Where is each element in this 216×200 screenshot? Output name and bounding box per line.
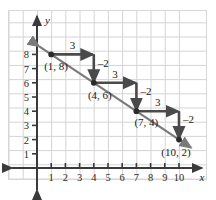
y-tick-label-5: 5 — [24, 92, 29, 103]
point-label-2: (7, 4) — [134, 116, 158, 129]
x-tick-label-5: 5 — [105, 172, 110, 183]
chart-figure: 1234567891012345678xy3–23–23–2(1, 8)(4, … — [0, 0, 216, 200]
y-tick-label-8: 8 — [24, 49, 29, 60]
rise-label-0: –2 — [97, 57, 109, 69]
run-label-0: 3 — [70, 39, 76, 51]
x-tick-label-6: 6 — [120, 172, 125, 183]
y-tick-label-7: 7 — [24, 64, 29, 75]
point-label-3: (10, 2) — [161, 146, 191, 159]
data-point-1 — [91, 80, 97, 86]
y-tick-label-4: 4 — [24, 106, 30, 117]
coordinate-plane: 1234567891012345678xy3–23–23–2(1, 8)(4, … — [0, 0, 216, 200]
y-axis-label: y — [44, 14, 50, 26]
point-label-1: (4, 6) — [88, 89, 112, 102]
rise-label-1: –2 — [139, 85, 151, 97]
y-tick-label-2: 2 — [24, 135, 29, 146]
point-label-0: (1, 8) — [44, 60, 68, 73]
y-tick-label-3: 3 — [24, 120, 29, 131]
run-label-1: 3 — [112, 68, 118, 80]
x-tick-label-1: 1 — [49, 172, 54, 183]
data-point-3 — [176, 137, 182, 143]
x-tick-label-4: 4 — [91, 172, 97, 183]
axes — [12, 16, 202, 190]
x-tick-label-8: 8 — [148, 172, 153, 183]
data-point-0 — [48, 52, 54, 58]
run-label-2: 3 — [155, 96, 161, 108]
y-tick-label-1: 1 — [24, 149, 29, 160]
data-point-2 — [134, 108, 140, 114]
x-tick-label-10: 10 — [174, 172, 185, 183]
chart-labels: 1234567891012345678xy3–23–23–2(1, 8)(4, … — [24, 14, 205, 183]
x-tick-label-2: 2 — [63, 172, 68, 183]
rise-label-2: –2 — [182, 113, 194, 125]
x-tick-label-7: 7 — [134, 172, 139, 183]
x-tick-label-3: 3 — [77, 172, 82, 183]
y-tick-label-6: 6 — [24, 78, 29, 89]
x-axis-label: x — [199, 171, 205, 183]
x-tick-label-9: 9 — [162, 172, 167, 183]
